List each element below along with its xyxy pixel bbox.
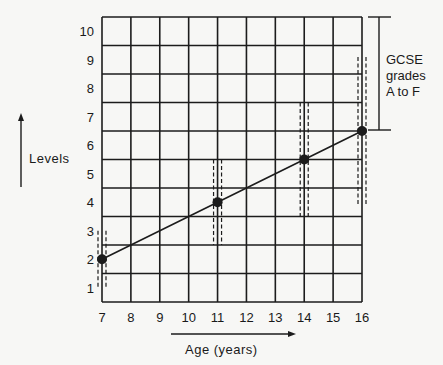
y-tick-label: 3 — [87, 224, 94, 239]
data-point-marker — [299, 155, 309, 165]
y-axis-arrow-icon — [18, 113, 24, 187]
x-tick-label: 15 — [326, 310, 340, 325]
data-point-marker — [213, 197, 223, 207]
y-tick-label: 9 — [87, 53, 94, 68]
x-axis-tick-labels: 78910111213141516 — [98, 310, 369, 325]
y-tick-label: 6 — [87, 138, 94, 153]
x-axis-arrow-icon — [171, 331, 296, 337]
x-tick-label: 7 — [98, 310, 105, 325]
chart-grid — [102, 17, 362, 302]
x-tick-label: 10 — [181, 310, 195, 325]
y-tick-label: 8 — [87, 81, 94, 96]
data-series — [97, 126, 367, 264]
gcse-label-line3: A to F — [386, 84, 420, 99]
gcse-annotation: GCSE grades A to F — [386, 52, 426, 99]
y-tick-label: 4 — [87, 195, 94, 210]
x-tick-label: 8 — [127, 310, 134, 325]
y-tick-label: 1 — [87, 281, 94, 296]
x-tick-label: 9 — [156, 310, 163, 325]
y-tick-label: 5 — [87, 167, 94, 182]
x-axis-title: Age (years) — [185, 342, 258, 357]
series-line — [102, 131, 362, 259]
x-tick-label: 16 — [355, 310, 369, 325]
dashed-range-bars — [98, 57, 366, 288]
levels-by-age-chart: 12345678910 78910111213141516 Levels Age… — [0, 0, 443, 365]
y-tick-label: 10 — [80, 24, 94, 39]
x-tick-label: 13 — [268, 310, 282, 325]
data-point-marker — [97, 254, 107, 264]
data-point-marker — [357, 126, 367, 136]
gcse-label-line1: GCSE — [386, 52, 423, 67]
y-axis-title: Levels — [29, 151, 70, 166]
x-tick-label: 11 — [211, 310, 225, 325]
y-axis-tick-labels: 12345678910 — [80, 24, 94, 296]
x-tick-label: 14 — [297, 310, 311, 325]
x-tick-label: 12 — [239, 310, 253, 325]
gcse-label-line2: grades — [386, 68, 426, 83]
y-tick-label: 7 — [87, 110, 94, 125]
y-tick-label: 2 — [87, 252, 94, 267]
